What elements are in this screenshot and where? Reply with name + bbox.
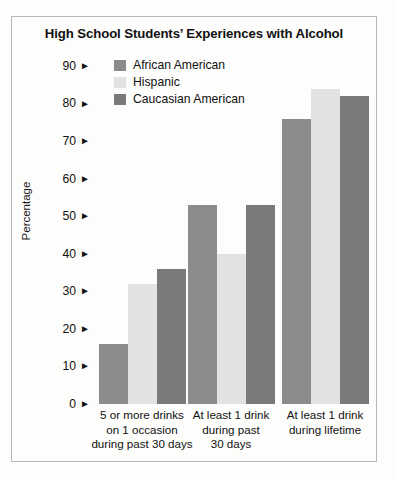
bar[interactable] xyxy=(128,284,157,404)
legend-item-1[interactable]: African American xyxy=(114,57,245,74)
tick-arrow-icon: ► xyxy=(80,98,90,108)
y-axis-tick-90: 90► xyxy=(52,58,90,74)
bar-group-2 xyxy=(187,66,275,404)
y-tick-value: 50 xyxy=(63,210,77,222)
x-axis-label-line: 30 days xyxy=(171,437,291,452)
legend-label: Hispanic xyxy=(133,76,180,88)
bar[interactable] xyxy=(157,269,186,404)
y-tick-value: 10 xyxy=(63,360,77,372)
tick-arrow-icon: ► xyxy=(80,248,90,258)
legend-item-3[interactable]: Caucasian American xyxy=(114,91,245,108)
x-axis-label-line: during lifetime xyxy=(265,423,385,438)
tick-arrow-icon: ► xyxy=(80,173,90,183)
y-axis-ticks: 0►10►20►30►40►50►60►70►80►90► xyxy=(52,58,90,412)
bar[interactable] xyxy=(99,344,128,404)
tick-arrow-icon: ► xyxy=(80,399,90,409)
plot-area xyxy=(95,66,367,404)
bar[interactable] xyxy=(188,205,217,404)
x-axis-label-3: At least 1 drinkduring lifetime xyxy=(265,408,385,437)
bar[interactable] xyxy=(217,254,246,404)
bar[interactable] xyxy=(246,205,275,404)
bar-group-1 xyxy=(98,66,186,404)
chart-legend: African AmericanHispanicCaucasian Americ… xyxy=(114,57,245,108)
chart-page: High School Students’ Experiences with A… xyxy=(0,0,397,480)
legend-item-2[interactable]: Hispanic xyxy=(114,74,245,91)
bar[interactable] xyxy=(340,96,369,404)
x-axis-labels: 5 or more drinkson 1 occasionduring past… xyxy=(95,408,367,464)
y-tick-value: 80 xyxy=(63,97,77,109)
y-tick-value: 20 xyxy=(63,323,77,335)
y-tick-value: 60 xyxy=(63,173,77,185)
y-axis-tick-70: 70► xyxy=(52,133,90,149)
bar[interactable] xyxy=(282,119,311,404)
y-tick-value: 0 xyxy=(69,398,76,410)
page-title: High School Students’ Experiences with A… xyxy=(11,26,377,41)
y-axis-tick-60: 60► xyxy=(52,171,90,187)
legend-swatch-icon xyxy=(114,94,126,105)
y-axis-tick-80: 80► xyxy=(52,96,90,112)
y-axis-tick-30: 30► xyxy=(52,283,90,299)
legend-label: Caucasian American xyxy=(133,93,245,105)
x-axis-label-line: At least 1 drink xyxy=(265,408,385,423)
legend-label: African American xyxy=(133,59,225,71)
tick-arrow-icon: ► xyxy=(80,136,90,146)
legend-swatch-icon xyxy=(114,60,126,71)
legend-swatch-icon xyxy=(114,77,126,88)
y-axis-tick-20: 20► xyxy=(52,321,90,337)
tick-arrow-icon: ► xyxy=(80,61,90,71)
tick-arrow-icon: ► xyxy=(80,361,90,371)
y-axis-tick-40: 40► xyxy=(52,246,90,262)
y-tick-value: 90 xyxy=(63,60,77,72)
bar[interactable] xyxy=(311,89,340,404)
y-tick-value: 70 xyxy=(63,135,77,147)
y-tick-value: 40 xyxy=(63,248,77,260)
bar-group-3 xyxy=(281,66,369,404)
y-axis-tick-10: 10► xyxy=(52,358,90,374)
tick-arrow-icon: ► xyxy=(80,323,90,333)
tick-arrow-icon: ► xyxy=(80,211,90,221)
y-axis-tick-50: 50► xyxy=(52,208,90,224)
tick-arrow-icon: ► xyxy=(80,286,90,296)
y-tick-value: 30 xyxy=(63,285,77,297)
y-axis-label: Percentage xyxy=(20,166,32,256)
